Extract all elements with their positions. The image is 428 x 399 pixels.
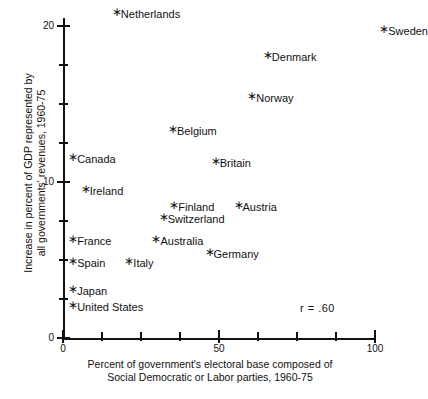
y-axis-title: Increase in percent of GDP represented b…: [22, 28, 48, 318]
data-point-label: Australia: [160, 236, 203, 247]
y-axis-title-line2: all governments' revenues, 1960-75: [35, 28, 48, 318]
asterisk-marker-icon: [234, 203, 238, 207]
asterisk-marker-icon: [124, 259, 128, 263]
x-tick-100: [374, 330, 376, 343]
y-tick-17.5: [59, 64, 68, 66]
data-point-label: Japan: [77, 286, 107, 297]
asterisk-marker-icon: [263, 53, 267, 57]
x-tick-12.5: [101, 332, 103, 341]
asterisk-marker-icon: [169, 203, 173, 207]
x-axis-title-line2: Social Democratic or Labor parties, 1960…: [40, 371, 380, 384]
y-tick-10: [57, 181, 70, 183]
asterisk-marker-icon: [68, 259, 72, 263]
x-tick-label-0: 0: [48, 344, 78, 354]
asterisk-marker-icon: [379, 27, 383, 31]
asterisk-marker-icon: [247, 94, 251, 98]
asterisk-marker-icon: [205, 250, 209, 254]
data-point-label: Austria: [243, 202, 277, 213]
asterisk-marker-icon: [211, 159, 215, 163]
x-tick-label-100: 100: [360, 344, 390, 354]
asterisk-marker-icon: [168, 127, 172, 131]
x-tick-50: [218, 330, 220, 343]
data-point-label: Ireland: [90, 186, 124, 197]
x-tick-62.5: [257, 332, 259, 341]
y-tick-7.5: [59, 220, 68, 222]
data-point-label: Spain: [77, 258, 105, 269]
data-point-label: Netherlands: [121, 9, 180, 20]
asterisk-marker-icon: [68, 303, 72, 307]
x-tick-0: [62, 330, 64, 343]
data-point-label: Belgium: [177, 126, 217, 137]
data-point-label: Sweden: [388, 26, 428, 37]
asterisk-marker-icon: [159, 215, 163, 219]
data-point-label: Finland: [178, 202, 214, 213]
data-point-label: France: [77, 236, 111, 247]
x-tick-label-50: 50: [204, 344, 234, 354]
y-axis-line: [63, 18, 65, 340]
correlation-annotation: r = .60: [300, 303, 335, 314]
x-axis-title-line1: Percent of government's electoral base c…: [40, 358, 380, 371]
x-tick-87.5: [335, 332, 337, 341]
data-point-label: Canada: [77, 154, 116, 165]
y-tick-5: [59, 259, 68, 261]
data-point-label: Denmark: [272, 52, 317, 63]
data-point-label: Britain: [220, 158, 251, 169]
asterisk-marker-icon: [68, 287, 72, 291]
y-axis-title-line1: Increase in percent of GDP represented b…: [22, 28, 35, 318]
x-axis-title: Percent of government's electoral base c…: [40, 358, 380, 384]
data-point-label: Norway: [256, 93, 293, 104]
y-tick-2.5: [59, 298, 68, 300]
data-point-label: Italy: [133, 258, 153, 269]
asterisk-marker-icon: [81, 187, 85, 191]
y-tick-12.5: [59, 142, 68, 144]
y-tick-15: [59, 103, 68, 105]
data-point-label: United States: [77, 302, 143, 313]
asterisk-marker-icon: [68, 155, 72, 159]
asterisk-marker-icon: [112, 10, 116, 14]
y-tick-20: [57, 25, 70, 27]
asterisk-marker-icon: [68, 237, 72, 241]
y-tick-label-0: 0: [28, 333, 54, 343]
data-point-label: Switzerland: [168, 214, 225, 225]
asterisk-marker-icon: [151, 237, 155, 241]
x-tick-75: [296, 332, 298, 341]
data-point-label: Germany: [214, 249, 259, 260]
x-tick-25: [140, 332, 142, 341]
x-tick-37.5: [179, 332, 181, 341]
